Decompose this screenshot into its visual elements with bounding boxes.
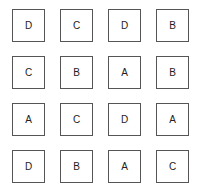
letter-grid: DCDBCBABACDADBAC xyxy=(12,9,189,183)
grid-cell: B xyxy=(156,9,189,42)
grid-cell: A xyxy=(108,56,141,89)
grid-cell: A xyxy=(12,103,45,136)
grid-cell: D xyxy=(12,9,45,42)
grid-cell: A xyxy=(156,103,189,136)
grid-cell: B xyxy=(60,150,93,183)
grid-cell: C xyxy=(60,103,93,136)
grid-cell: C xyxy=(156,150,189,183)
grid-cell: B xyxy=(60,56,93,89)
grid-cell: C xyxy=(12,56,45,89)
grid-cell: A xyxy=(108,150,141,183)
grid-cell: D xyxy=(12,150,45,183)
grid-cell: D xyxy=(108,9,141,42)
grid-cell: B xyxy=(156,56,189,89)
grid-cell: D xyxy=(108,103,141,136)
grid-cell: C xyxy=(60,9,93,42)
